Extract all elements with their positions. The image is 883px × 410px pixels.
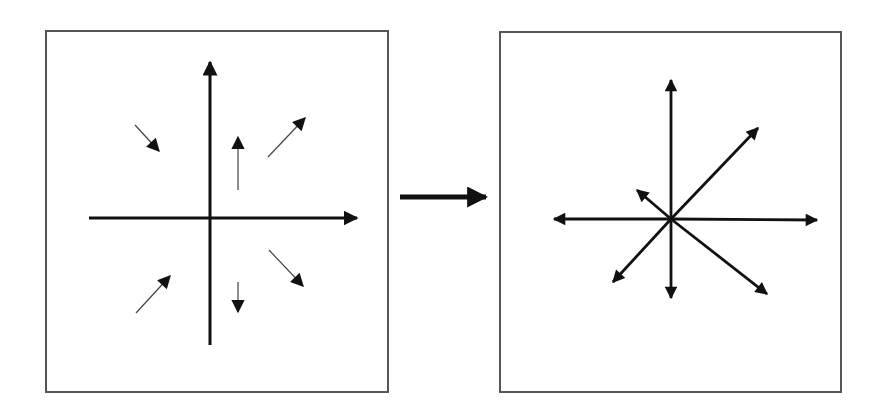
- ray-up-left-short-arrow-icon: [637, 190, 671, 219]
- field-arrow-bottom-right-icon: [269, 250, 303, 286]
- after-rays: [554, 80, 817, 298]
- ray-up-right-arrow-icon: [671, 128, 758, 219]
- ray-down-right-arrow-icon: [671, 219, 767, 294]
- diagram-canvas: [0, 0, 883, 410]
- ray-right-arrow-icon: [671, 219, 817, 220]
- field-arrow-bottom-left-icon: [136, 276, 170, 313]
- before-field-arrows: [135, 118, 305, 313]
- before-axes: [89, 62, 357, 345]
- ray-down-left-arrow-icon: [613, 219, 671, 282]
- field-arrow-top-right-icon: [268, 118, 305, 157]
- field-arrow-top-left-icon: [135, 125, 159, 151]
